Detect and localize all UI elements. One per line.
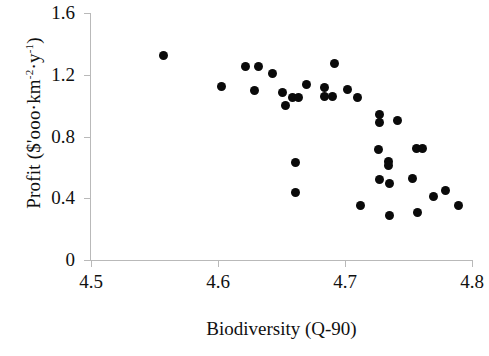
data-point [454, 201, 463, 210]
y-tick-mark: 1.2 [84, 75, 91, 76]
x-tick-mark [345, 260, 346, 267]
scatter-plot-figure: Profit ($'ooo·km-2·y-1) Biodiversity (Q-… [0, 0, 489, 356]
data-point [375, 175, 384, 184]
y-tick-mark: 0.4 [84, 198, 91, 199]
data-point [384, 161, 393, 170]
data-point [294, 93, 303, 102]
data-point [393, 116, 402, 125]
data-point [302, 80, 311, 89]
data-point [408, 174, 417, 183]
y-axis-label-suffix: ) [23, 37, 44, 44]
data-point [328, 92, 337, 101]
data-point [281, 101, 290, 110]
y-tick-label: 0.4 [51, 187, 75, 209]
x-tick-label: 4.8 [460, 271, 484, 293]
x-tick-mark [472, 260, 473, 267]
x-tick-label: 4.7 [333, 271, 357, 293]
y-tick-label: 0 [66, 249, 76, 271]
data-point [159, 51, 168, 60]
data-point [418, 144, 427, 153]
data-point [268, 69, 277, 78]
y-tick-mark: 1.6 [84, 13, 91, 14]
y-tick-label: 1.6 [51, 2, 75, 24]
data-point [353, 93, 362, 102]
y-axis-label-middle: ·y [23, 53, 44, 69]
data-point [413, 208, 422, 217]
x-tick-label: 4.5 [79, 271, 103, 293]
data-point [241, 62, 250, 71]
y-tick-label: 0.8 [51, 126, 75, 148]
y-tick-label: 1.2 [51, 64, 75, 86]
y-axis-label-prefix: Profit ($'ooo·km [23, 79, 44, 209]
y-axis-label-exponent-1: -2 [23, 70, 35, 80]
data-point [343, 85, 352, 94]
data-point [356, 201, 365, 210]
x-axis-line [90, 260, 472, 261]
x-axis-label: Biodiversity (Q-90) [91, 318, 472, 340]
data-point [278, 88, 287, 97]
data-point [374, 145, 383, 154]
plot-area: 00.40.81.21.6 4.54.64.74.8 [91, 13, 472, 260]
y-axis-label-exponent-2: -1 [23, 44, 35, 54]
y-tick-mark: 0.8 [84, 137, 91, 138]
data-point [250, 86, 259, 95]
data-point [217, 82, 226, 91]
y-tick-mark: 0 [84, 260, 91, 261]
data-point [385, 211, 394, 220]
x-tick-mark [218, 260, 219, 267]
x-tick-mark [91, 260, 92, 267]
y-axis-label: Profit ($'ooo·km-2·y-1) [23, 0, 45, 253]
data-point [254, 62, 263, 71]
data-point [375, 118, 384, 127]
data-point [320, 83, 329, 92]
x-tick-label: 4.6 [206, 271, 230, 293]
data-point [429, 192, 438, 201]
data-point [441, 186, 450, 195]
data-point [385, 179, 394, 188]
data-point [291, 158, 300, 167]
data-point [330, 59, 339, 68]
data-point [291, 188, 300, 197]
